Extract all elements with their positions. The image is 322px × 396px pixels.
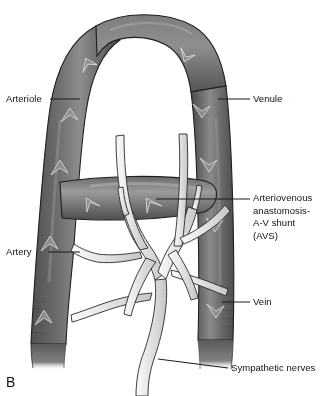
figure-panel: Arteriole Artery Venule Arteriovenous an… [0, 0, 322, 396]
label-arteriovenous-anastomosis: Arteriovenous anastomosis- A-V shunt (AV… [253, 192, 312, 242]
panel-letter: B [6, 374, 15, 390]
arch-apex [96, 15, 226, 92]
label-sympathetic-nerves: Sympathetic nerves [231, 362, 315, 375]
label-arteriole: Arteriole [6, 93, 42, 106]
label-vein: Vein [253, 296, 272, 309]
label-artery: Artery [6, 246, 32, 259]
label-venule: Venule [253, 93, 282, 106]
